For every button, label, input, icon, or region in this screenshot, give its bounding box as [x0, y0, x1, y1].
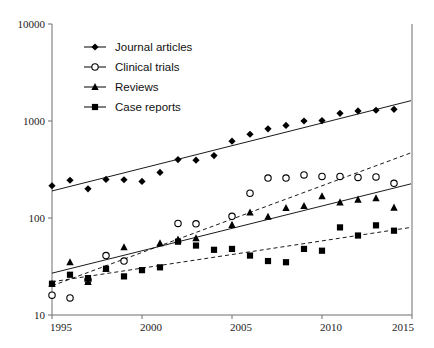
legend-label: Reviews	[115, 81, 159, 93]
point-2007-36	[265, 258, 271, 264]
legend-label: Case reports	[115, 101, 181, 113]
point-1999-25	[121, 273, 127, 279]
point-2009-278	[301, 172, 307, 178]
point-2000-29	[139, 267, 145, 273]
x-axis-label-1995: 1995	[50, 321, 73, 333]
point-2013-84	[373, 222, 379, 228]
point-1995-215	[48, 182, 55, 189]
point-2005-85	[228, 221, 235, 228]
point-2014-128	[390, 204, 397, 211]
point-2014-228	[391, 180, 397, 186]
point-2006-41	[247, 252, 253, 258]
point-1995-21	[49, 281, 55, 287]
series-case-reports	[49, 222, 397, 287]
y-axis-label-100: 100	[29, 212, 46, 224]
point-1995-16	[49, 292, 55, 298]
point-1996-245	[66, 177, 73, 184]
point-1999-36	[121, 258, 127, 264]
point-2011-268	[337, 173, 343, 179]
point-2005-104	[229, 213, 235, 219]
point-2002-57	[175, 239, 181, 245]
point-2014-1320	[390, 106, 397, 113]
point-1997-200	[84, 185, 91, 192]
legend-item-journal-articles[interactable]: Journal articles	[84, 41, 193, 53]
point-2014-74	[391, 228, 397, 234]
point-2004-47	[211, 247, 217, 253]
series-clinical-trials	[49, 172, 397, 301]
point-1999-50	[120, 243, 127, 250]
point-2007-258	[265, 175, 271, 181]
series-journal-articles	[48, 106, 397, 193]
point-2005-620	[228, 138, 235, 145]
point-2010-268	[319, 173, 325, 179]
point-1996-26	[67, 272, 73, 278]
series-reviews	[48, 192, 397, 287]
point-2008-258	[283, 175, 289, 181]
legend-item-clinical-trials[interactable]: Clinical trials	[84, 61, 180, 73]
point-1997-24	[85, 275, 91, 281]
y-axis-label-10000: 10000	[18, 18, 46, 30]
point-2001-55	[156, 239, 163, 246]
chart-legend: Journal articlesClinical trialsReviewsCa…	[84, 41, 193, 113]
point-2010-46	[319, 248, 325, 254]
point-2002-400	[174, 156, 181, 163]
point-2003-52	[193, 242, 199, 248]
legend-label: Journal articles	[115, 41, 193, 53]
legend-label: Clinical trials	[115, 61, 180, 73]
legend-item-case-reports[interactable]: Case reports	[84, 101, 181, 113]
data-points	[48, 106, 397, 301]
point-2013-265	[373, 174, 379, 180]
x-axis-label-2010: 2010	[320, 321, 343, 333]
point-2011-1200	[336, 110, 343, 117]
point-2008-900	[282, 122, 289, 129]
legend-item-reviews[interactable]: Reviews	[84, 81, 159, 93]
point-2010-1010	[318, 117, 325, 124]
point-2001-31	[157, 264, 163, 270]
point-2001-295	[156, 169, 163, 176]
chart-axes	[48, 24, 412, 319]
point-1996-35	[66, 258, 73, 265]
chart-container: Journal articlesClinical trialsReviewsCa…	[0, 0, 434, 348]
point-2007-830	[264, 125, 271, 132]
point-2003-87	[193, 221, 199, 227]
point-2006-180	[247, 190, 253, 196]
point-2003-395	[192, 157, 199, 164]
point-2000-238	[138, 178, 145, 185]
point-2010-168	[318, 192, 325, 199]
point-2009-48	[301, 246, 307, 252]
point-2002-88	[175, 220, 181, 226]
x-axis-label-2000: 2000	[140, 321, 163, 333]
point-2007-103	[264, 213, 271, 220]
point-2008-35	[283, 259, 289, 265]
point-2005-48	[229, 246, 235, 252]
point-2012-66	[355, 232, 361, 238]
legend-marker-filled-diamond	[91, 43, 98, 50]
point-2009-1000	[300, 117, 307, 124]
point-2012-262	[355, 174, 361, 180]
legend-marker-filled-square	[92, 104, 98, 110]
y-axis-label-1000: 1000	[23, 115, 46, 127]
point-2009-133	[300, 202, 307, 209]
point-1998-30	[103, 266, 109, 272]
y-axis-label-10: 10	[34, 309, 46, 321]
point-2011-80	[337, 224, 343, 230]
point-2004-440	[210, 152, 217, 159]
legend-marker-open-circle	[92, 64, 98, 70]
point-2013-1290	[372, 107, 379, 114]
point-1999-248	[120, 176, 127, 183]
point-2008-127	[282, 204, 289, 211]
x-axis-label-2005: 2005	[230, 321, 253, 333]
point-1996-15	[67, 295, 73, 301]
point-1998-41	[103, 252, 109, 258]
point-2006-730	[246, 131, 253, 138]
x-axis-label-2015: 2015	[392, 321, 415, 333]
point-2006-114	[246, 208, 253, 215]
point-2013-160	[372, 194, 379, 201]
publications-log-chart: Journal articlesClinical trialsReviewsCa…	[0, 0, 434, 348]
